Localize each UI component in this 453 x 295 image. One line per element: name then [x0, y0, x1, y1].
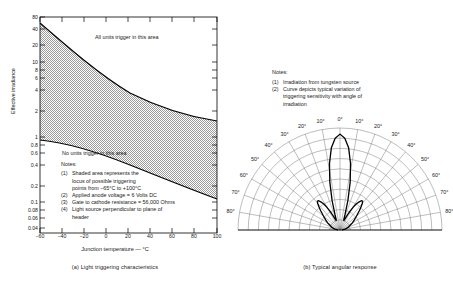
panel-a-caption: (a) Light triggering characteristics: [0, 264, 230, 270]
annotation-all-units-trigger: All units trigger in this area: [95, 34, 159, 40]
panel-b-caption: (b) Typical angular response: [230, 264, 450, 270]
note-text: Applied anode voltage = 6 Volts DC: [72, 192, 157, 199]
polar-label-left-80: 80°: [227, 208, 235, 214]
note-item: (3) Gate to cathode resistance = 56,000 …: [61, 199, 175, 206]
panel-angular-response: Notes: (1) Irradiation from tungsten sou…: [230, 0, 450, 295]
y-tick: 20: [32, 42, 38, 48]
polar-label-right-40: 40°: [407, 142, 415, 148]
note-text: points from −65°C to +100°C: [72, 185, 175, 192]
note-text: locus of possible triggering: [72, 178, 175, 185]
y-tick: 0.4: [31, 162, 38, 168]
polar-label-right-30: 30°: [391, 131, 399, 137]
note-number: (2): [61, 192, 72, 199]
x-tick: 100: [213, 233, 222, 239]
note-text: Shaded area represents the: [72, 170, 139, 177]
polar-label-right-80: 80°: [445, 208, 453, 214]
note-item: (2) Applied anode voltage = 6 Volts DC: [61, 192, 175, 199]
x-tick: 40: [147, 233, 153, 239]
polar-label-0: 0°: [337, 116, 342, 122]
y-tick: 40: [32, 26, 38, 32]
y-tick: 4: [35, 87, 38, 93]
polar-label-left-70: 70°: [232, 189, 240, 195]
polar-label-left-30: 30°: [280, 131, 288, 137]
x-tick: −40: [58, 233, 67, 239]
polar-label-right-60: 60°: [432, 172, 440, 178]
note-text: header: [72, 214, 175, 221]
y-tick: 0.8: [31, 142, 38, 148]
y-tick: 2: [35, 108, 38, 114]
polar-label-left-10: 10°: [317, 118, 325, 124]
y-tick: 0.6: [31, 150, 38, 156]
polar-label-left-60: 60°: [240, 172, 248, 178]
y-tick: 10: [32, 59, 38, 65]
y-tick-labels: 80 40 20 10 8 6 4 2 1 0.8 0.6 0.4 0.2 0.…: [14, 0, 38, 262]
panel-light-triggering: 80 40 20 10 8 6 4 2 1 0.8 0.6 0.4 0.2 0.…: [0, 0, 230, 295]
y-tick: 0.04: [28, 225, 38, 231]
polar-label-right-20: 20°: [374, 123, 382, 129]
x-tick: 80: [191, 233, 197, 239]
note-number: (3): [61, 199, 72, 206]
note-item: (1) Shaded area represents the: [61, 170, 175, 177]
y-tick: 0.1: [31, 199, 38, 205]
polar-label-left-40: 40°: [265, 142, 273, 148]
x-axis-label: Junction temperature — °C: [0, 246, 230, 252]
note-item: (4) Light source perpendicular to plane …: [61, 206, 175, 213]
polar-label-right-70: 70°: [440, 189, 448, 195]
angular-response-chart: [230, 0, 450, 262]
note-number: (4): [61, 206, 72, 213]
polar-label-left-50: 50°: [251, 156, 259, 162]
x-tick: −20: [80, 233, 89, 239]
polar-label-left-20: 20°: [298, 123, 306, 129]
notes-title: Notes:: [61, 161, 175, 168]
y-tick: 0.06: [28, 215, 38, 221]
y-tick: 1: [35, 134, 38, 140]
y-tick: 0.2: [31, 183, 38, 189]
y-tick: 6: [35, 75, 38, 81]
y-axis-label: Effective irradiance: [10, 56, 16, 126]
x-tick: 0: [105, 233, 108, 239]
annotation-no-units-trigger: No units trigger in this area: [62, 150, 126, 156]
y-tick: 80: [32, 14, 38, 20]
note-text: Gate to cathode resistance = 56,000 Ohms: [72, 199, 175, 206]
x-tick: −60: [36, 233, 45, 239]
note-text: Light source perpendicular to plane of: [72, 206, 162, 213]
note-number: (1): [61, 170, 72, 177]
x-tick: 60: [169, 233, 175, 239]
x-tick-labels: −60 −40 −20 0 20 40 60 80 100: [0, 233, 230, 245]
polar-label-right-50: 50°: [421, 156, 429, 162]
notes-block-a: Notes: (1) Shaded area represents the lo…: [61, 161, 175, 221]
x-tick: 20: [125, 233, 131, 239]
polar-label-right-10: 10°: [355, 118, 363, 124]
y-tick: 8: [35, 67, 38, 73]
y-tick: 0.08: [28, 207, 38, 213]
